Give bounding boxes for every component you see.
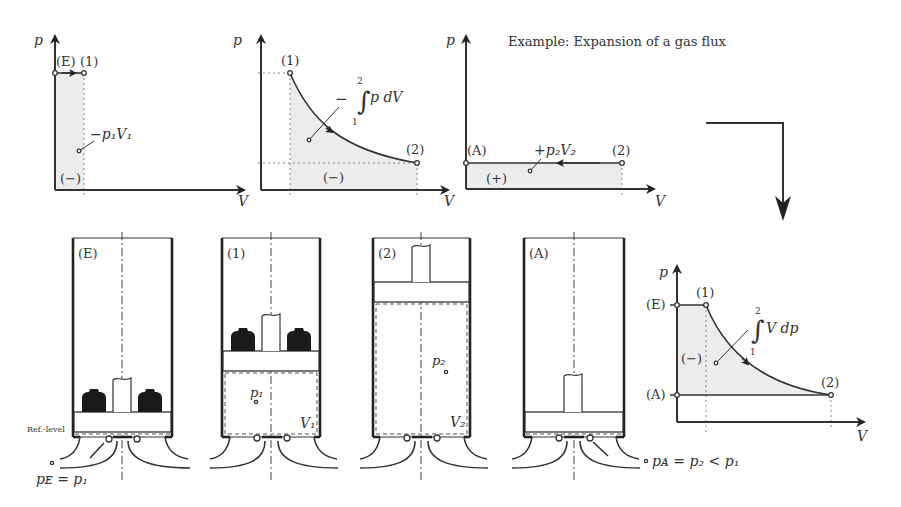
v-axis-label: V (857, 428, 869, 444)
piston-rod (412, 245, 430, 282)
label-e: (E) (646, 297, 666, 312)
label-1: (1) (281, 53, 299, 68)
outlet-valve (134, 436, 140, 442)
inlet-condition: pᴇ = p₁ (36, 471, 88, 487)
p-axis-label: p (659, 264, 668, 280)
v-axis-label: V (238, 193, 250, 209)
graph-2-to-a: p V (A) (2) +p₂V₂ (+) (446, 32, 667, 209)
integrand: V dp (766, 320, 799, 336)
piston-rod (113, 378, 131, 412)
piston (74, 412, 171, 432)
volume-label: V₁ (300, 415, 316, 431)
label-e: (E) (56, 54, 76, 69)
label-2: (2) (406, 142, 424, 157)
weight (138, 389, 162, 412)
point-e (53, 71, 58, 76)
graph-1-to-2: p V (1) (2) − ∫ 2 1 p dV (−) (233, 32, 456, 209)
diagram-title: Example: Expansion of a gas flux (508, 34, 727, 49)
v-axis-label: V (655, 193, 667, 209)
volume-label: V₂ (450, 414, 466, 430)
flow-arrow (706, 123, 791, 221)
ref-level-label: Ref.-level (27, 425, 65, 434)
piston (223, 351, 319, 371)
label-2: (2) (612, 143, 630, 158)
p-axis-label: p (34, 32, 43, 48)
inlet-valve (106, 436, 112, 442)
integral-symbol: ∫ (751, 315, 765, 345)
state-label: (A) (529, 246, 549, 261)
integral-sign: − (335, 90, 348, 108)
integral-lower: 1 (750, 347, 756, 357)
weight (82, 389, 106, 412)
integral-symbol: ∫ (357, 86, 371, 116)
point-1 (82, 71, 87, 76)
integrand: p dV (370, 89, 404, 105)
v-axis-label: V (444, 193, 456, 209)
integral-upper: 2 (755, 306, 761, 316)
label-1: (1) (80, 54, 98, 69)
piston (374, 282, 469, 302)
weight (231, 328, 255, 351)
state-label: (1) (227, 246, 245, 261)
state-label: (E) (78, 246, 98, 261)
sign-label: (+) (486, 171, 507, 186)
pressure-label: p₁ (250, 385, 264, 400)
integral-upper: 2 (357, 76, 363, 86)
weight (287, 328, 311, 351)
cylinder-e: (E) Ref.-level pᴇ = p₁ (27, 232, 190, 487)
p-axis-label: p (233, 32, 242, 48)
cylinder-2: (2) p₂ V₂ (360, 232, 488, 480)
label-1: (1) (696, 285, 714, 300)
piston (525, 412, 623, 432)
outlet-condition: pᴀ = p₂ < p₁ (652, 453, 739, 469)
state-label: (2) (378, 246, 396, 261)
label-a: (A) (646, 387, 666, 402)
cylinder-1: (1) p₁ V₁ (210, 232, 338, 480)
piston-rod (262, 314, 280, 351)
sign-label: (−) (60, 171, 81, 186)
integral-lower: 1 (352, 117, 358, 127)
graph-e-to-1: p V (E) (1) −p₁V₁ (−) (34, 32, 250, 209)
p-axis-label: p (446, 32, 455, 48)
piston-rod (564, 374, 582, 412)
diagram-canvas: Example: Expansion of a gas flux p V (E)… (0, 0, 901, 507)
sign-label: (−) (323, 170, 344, 185)
area-label: −p₁V₁ (90, 126, 132, 142)
graph-total: p V (E) (A) (1) (2) ∫ 2 1 V dp (−) (646, 264, 869, 444)
label-2: (2) (821, 375, 839, 390)
label-a: (A) (467, 143, 487, 158)
sign-label: (−) (681, 351, 702, 366)
pressure-label: p₂ (432, 353, 446, 368)
area-label: +p₂V₂ (534, 142, 576, 158)
